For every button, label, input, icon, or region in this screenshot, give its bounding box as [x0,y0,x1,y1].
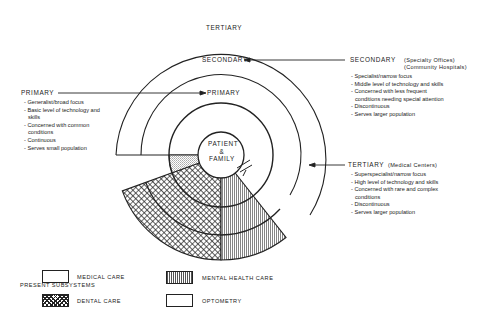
tertiary-heading: TERTIARY [348,161,384,169]
center-label-line: FAMILY [208,155,236,163]
primary-heading: PRIMARY [21,89,54,97]
ring-label-primary: PRIMARY [207,89,240,97]
tertiary-item: Superspecialist/narrow focus [351,171,451,179]
primary-item: Basic level of technology and skills [24,107,104,122]
secondary-item: Middle level of technology and skills [351,81,446,89]
primary-item: Generalist/broad focus [24,99,104,107]
secondary-qualifier-2: (Community Hospitals) [404,63,467,71]
ring-label-secondary: SECONDARY [202,56,248,64]
secondary-description: Specialist/narrow focus Middle level of … [351,73,446,119]
secondary-item: Discontinuous [351,103,446,111]
ring-label-tertiary: TERTIARY [206,24,242,32]
tertiary-description: Superspecialist/narrow focus High level … [351,171,451,217]
primary-item: Serves small population [24,145,104,153]
primary-item: Concerned with common conditions [24,122,104,137]
center-label-line: & [208,148,236,156]
legend-label-medical: MEDICAL CARE [77,274,125,280]
tertiary-qualifier: (Medical Centers) [388,161,437,169]
legend-label-optometry: OPTOMETRY [202,298,242,304]
legend-label-dental: DENTAL CARE [77,298,121,304]
secondary-item: Serves larger population [351,111,446,119]
tertiary-item: Discontinuous [351,201,451,209]
primary-description: Generalist/broad focus Basic level of te… [24,99,104,152]
legend-swatch-optometry [166,294,193,307]
legend-swatch-medical [42,270,69,283]
legend-label-mental-health: MENTAL HEALTH CARE [202,275,273,281]
center-label-line: PATIENT [208,140,236,148]
secondary-item: Specialist/narrow focus [351,73,446,81]
center-label: PATIENT & FAMILY [208,140,236,163]
legend-swatch-mental-health [166,271,193,284]
legend-swatch-dental [42,294,69,307]
tertiary-item: High level of technology and skills [351,179,451,187]
tertiary-item: Concerned with rare and complex conditio… [351,186,451,201]
tertiary-item: Serves larger population [351,209,451,217]
secondary-item: Concerned with less frequent conditions … [351,88,446,103]
secondary-heading: SECONDARY [350,56,396,64]
primary-item: Continuous [24,137,104,145]
